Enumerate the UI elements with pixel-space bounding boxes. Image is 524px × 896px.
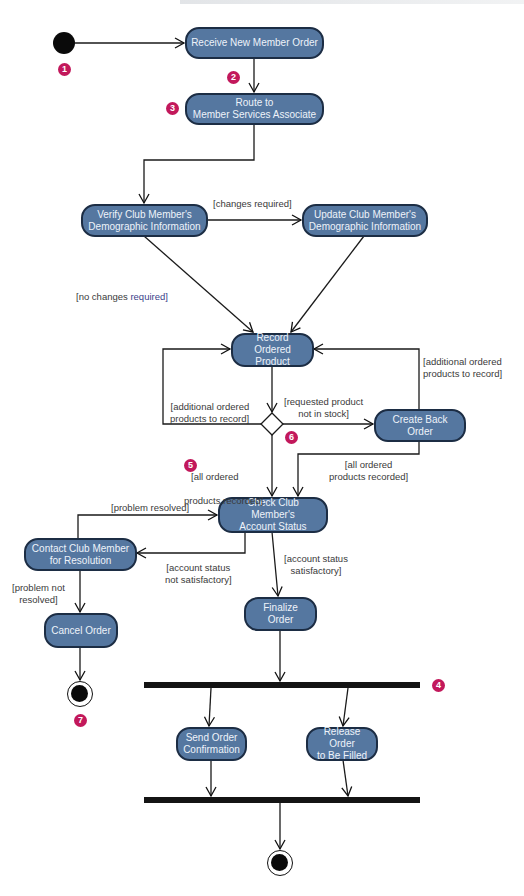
action-verify-demographic-info[interactable]: Verify Club Member's Demographic Informa…: [81, 204, 208, 237]
action-record-ordered-product[interactable]: Record Ordered Product: [231, 333, 314, 367]
action-update-demographic-info[interactable]: Update Club Member's Demographic Informa…: [302, 204, 428, 237]
guard-account-satisfactory: [account status satisfactory]: [284, 553, 348, 577]
guard-additional-products-right: [additional ordered products to record]: [423, 356, 502, 380]
guard-account-not-satisfactory: [account status not satisfactory]: [165, 562, 232, 586]
guard-additional-products-left: [additional ordered products to record]: [170, 401, 249, 425]
action-label: Contact Club Member for Resolution: [32, 543, 129, 567]
action-label: Verify Club Member's Demographic Informa…: [88, 209, 200, 233]
action-label: Receive New Member Order: [191, 37, 318, 49]
action-finalize-order[interactable]: Finalize Order: [244, 597, 317, 631]
callout-badge-6: 6: [285, 431, 298, 444]
initial-node: [53, 32, 75, 54]
guard-problem-resolved: [problem resolved]: [111, 502, 189, 514]
join-bar: [144, 797, 420, 803]
final-node-complete: [267, 850, 293, 876]
final-node-cancel: [67, 681, 93, 707]
action-label: Cancel Order: [51, 625, 110, 637]
action-cancel-order[interactable]: Cancel Order: [44, 613, 118, 648]
action-receive-new-member-order[interactable]: Receive New Member Order: [185, 27, 324, 59]
action-create-back-order[interactable]: Create Back Order: [374, 409, 466, 442]
callout-badge-7: 7: [74, 714, 87, 727]
action-label: Route to Member Services Associate: [193, 97, 316, 121]
flow-edges: [0, 0, 524, 896]
action-label: Update Club Member's Demographic Informa…: [309, 209, 421, 233]
callout-badge-5: 5: [184, 459, 197, 472]
action-contact-club-member[interactable]: Contact Club Member for Resolution: [24, 538, 137, 571]
guard-not-in-stock: [requested product not in stock]: [284, 396, 363, 420]
guard-changes-required: [changes required]: [213, 198, 292, 210]
callout-badge-1: 1: [58, 63, 71, 76]
guard-all-recorded-right: [all ordered products recorded]: [329, 459, 408, 483]
action-route-to-member-services[interactable]: Route to Member Services Associate: [185, 93, 324, 125]
callout-badge-3: 3: [166, 102, 179, 115]
action-label: Finalize Order: [250, 602, 311, 626]
action-label: Create Back Order: [380, 414, 460, 438]
fork-bar: [144, 682, 420, 688]
action-label: Send Order Confirmation: [183, 732, 240, 756]
callout-badge-2: 2: [227, 71, 240, 84]
guard-problem-not-resolved: [problem not resolved]: [12, 582, 65, 606]
action-label: Release Order to Be Filled: [312, 726, 372, 762]
guard-no-changes-required: [no changes required]: [76, 279, 168, 303]
callout-badge-4: 4: [432, 679, 445, 692]
action-send-order-confirmation[interactable]: Send Order Confirmation: [176, 727, 247, 761]
decision-node: [261, 413, 283, 435]
action-label: Record Ordered Product: [237, 332, 308, 368]
action-release-order[interactable]: Release Order to Be Filled: [306, 727, 378, 761]
